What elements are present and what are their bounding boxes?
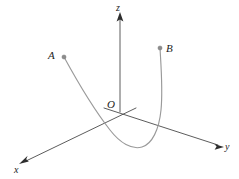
point-a-marker <box>62 55 66 59</box>
figure-root: z y x A B O <box>0 0 239 179</box>
x-axis <box>19 108 136 164</box>
x-axis-label: x <box>14 165 18 175</box>
point-a-label: A <box>48 50 55 61</box>
y-axis-arrowhead <box>214 144 224 150</box>
y-axis-label: y <box>225 142 229 152</box>
x-axis-line <box>26 108 136 161</box>
point-b-marker <box>158 46 162 50</box>
z-axis-label: z <box>116 3 120 13</box>
coordinate-diagram-svg <box>0 0 239 179</box>
origin-label: O <box>107 99 115 110</box>
point-b-label: B <box>166 43 173 54</box>
z-axis <box>117 12 124 112</box>
